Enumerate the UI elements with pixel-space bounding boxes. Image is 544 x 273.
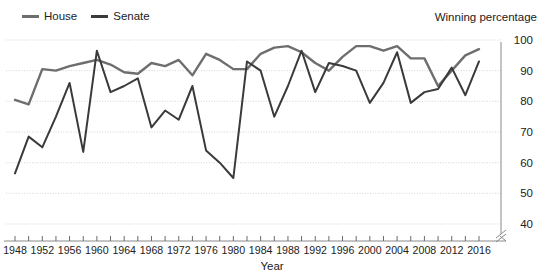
x-tick-label: 1992 bbox=[303, 244, 327, 256]
y-tick-label: 60 bbox=[520, 157, 533, 169]
y-tick-label: 80 bbox=[520, 95, 533, 107]
series-lines bbox=[15, 46, 479, 178]
y-axis bbox=[496, 42, 506, 242]
series-line-senate bbox=[15, 51, 479, 178]
x-tick-label: 2000 bbox=[358, 244, 382, 256]
plot-area: 100908070605040 194819521956196019641968… bbox=[0, 0, 544, 273]
y-tick-label: 90 bbox=[520, 65, 533, 77]
x-axis-line bbox=[4, 236, 506, 241]
x-tick-label: 1988 bbox=[276, 244, 300, 256]
x-tick-label: 1964 bbox=[112, 244, 136, 256]
x-tick-label: 1952 bbox=[31, 244, 55, 256]
y-tick-label: 50 bbox=[520, 187, 533, 199]
y-tick-labels: 100908070605040 bbox=[514, 34, 533, 230]
x-tick-label: 1976 bbox=[194, 244, 218, 256]
y-tick-label: 40 bbox=[520, 218, 533, 230]
x-tick-labels: 1948195219561960196419681972197619801984… bbox=[3, 244, 491, 256]
x-tick-label: 2004 bbox=[385, 244, 409, 256]
x-axis bbox=[4, 236, 506, 241]
x-tick-label: 1972 bbox=[167, 244, 191, 256]
x-tick-label: 1984 bbox=[249, 244, 273, 256]
x-tick-label: 2012 bbox=[440, 244, 464, 256]
x-tick-label: 1980 bbox=[222, 244, 246, 256]
winning-percentage-chart: House Senate Winning percentage Year 100… bbox=[0, 0, 544, 273]
x-tick-label: 2008 bbox=[413, 244, 437, 256]
y-tick-label: 100 bbox=[514, 34, 533, 46]
x-tick-label: 1960 bbox=[85, 244, 109, 256]
x-tick-label: 1968 bbox=[140, 244, 164, 256]
x-tick-label: 2016 bbox=[467, 244, 491, 256]
y-tick-label: 70 bbox=[520, 126, 533, 138]
x-tick-label: 1996 bbox=[331, 244, 355, 256]
x-tick-label: 1948 bbox=[3, 244, 27, 256]
x-tick-label: 1956 bbox=[58, 244, 82, 256]
